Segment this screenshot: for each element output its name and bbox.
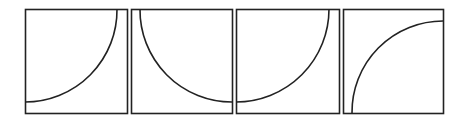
panel-1 xyxy=(25,9,128,114)
panel-4 xyxy=(344,10,444,114)
panel-2 xyxy=(132,9,233,114)
panel-3 xyxy=(236,9,340,114)
panel-frame xyxy=(132,10,233,114)
quarter-arc xyxy=(140,9,232,102)
panel-frame xyxy=(26,10,128,114)
quarter-arc xyxy=(25,9,117,102)
panel-frame xyxy=(237,10,340,114)
quarter-arc xyxy=(352,21,443,113)
quarter-arc xyxy=(236,9,329,102)
panel-frame xyxy=(344,10,444,114)
quarter-arc-diagram xyxy=(0,0,471,122)
